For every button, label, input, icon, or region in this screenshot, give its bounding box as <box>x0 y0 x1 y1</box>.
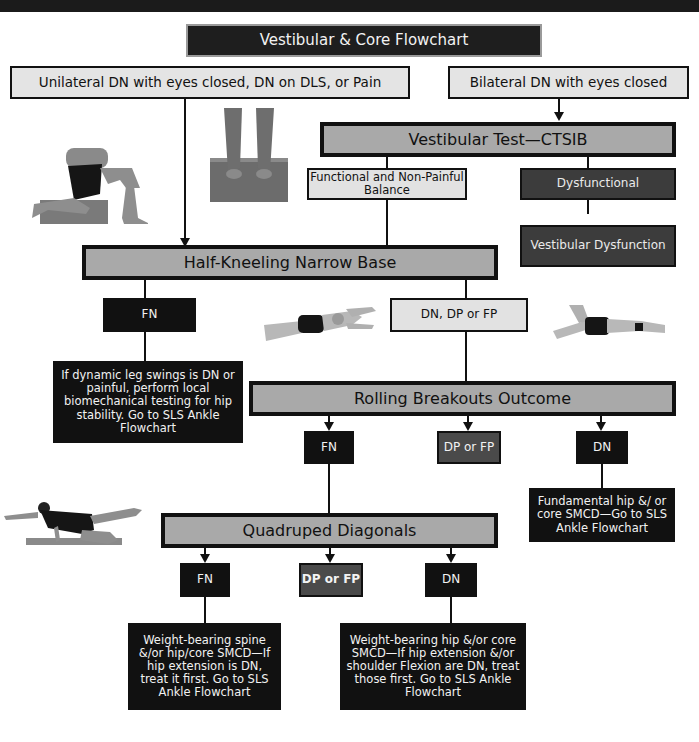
vestibular-dysfunction-box: Vestibular Dysfunction <box>520 225 676 267</box>
connector-line <box>204 597 206 625</box>
quadruped-fn-text: FN <box>197 573 213 586</box>
rolling-breakout-photo-right <box>549 303 669 345</box>
top-bar <box>0 0 699 12</box>
quadruped-dn-text: DN <box>442 573 460 586</box>
rolling-breakouts-box: Rolling Breakouts Outcome <box>249 381 676 416</box>
connector-line <box>601 464 603 490</box>
flowchart-title: Vestibular & Core Flowchart <box>186 24 542 57</box>
rolling-dp-fp-text: DP or FP <box>444 441 495 454</box>
connector-line <box>587 200 589 214</box>
flowchart-title-text: Vestibular & Core Flowchart <box>260 32 469 49</box>
quadruped-box: Quadruped Diagonals <box>161 513 498 548</box>
arrow-down-icon <box>324 422 334 431</box>
functional-balance-text: Functional and Non-Painful Balance <box>309 171 465 197</box>
rolling-dn-note: Fundamental hip &/ or core SMCD—Go to SL… <box>529 488 675 542</box>
vestibular-test-box: Vestibular Test—CTSIB <box>320 122 676 157</box>
rolling-dn-box: DN <box>576 431 628 464</box>
half-kneeling-photo <box>28 148 148 230</box>
quadruped-dn-box: DN <box>425 563 477 597</box>
dysfunctional-box: Dysfunctional <box>520 168 676 200</box>
quadruped-dp-fp-box: DP or FP <box>299 563 363 597</box>
arrow-down-icon <box>325 554 335 563</box>
connector-line <box>465 280 467 300</box>
rolling-dp-fp-box: DP or FP <box>437 431 501 464</box>
rolling-fn-box: FN <box>304 431 354 464</box>
arrow-down-icon <box>596 422 606 431</box>
entry-bilateral: Bilateral DN with eyes closed <box>448 66 689 99</box>
half-kneeling-fn-box: FN <box>103 298 196 332</box>
entry-unilateral: Unilateral DN with eyes closed, DN on DL… <box>10 66 410 99</box>
arrow-down-icon <box>554 112 564 121</box>
rolling-fn-text: FN <box>321 441 337 454</box>
connector-line <box>328 464 330 514</box>
quadruped-dn-note-text: Weight-bearing hip &/or core SMCD—If hip… <box>346 634 520 700</box>
entry-bilateral-text: Bilateral DN with eyes closed <box>470 75 667 90</box>
arrow-down-icon <box>446 554 456 563</box>
rolling-dn-note-text: Fundamental hip &/ or core SMCD—Go to SL… <box>535 495 669 534</box>
standing-on-foam-photo <box>208 108 290 206</box>
connector-line <box>386 200 388 246</box>
quadruped-fn-box: FN <box>180 563 230 597</box>
functional-balance-box: Functional and Non-Painful Balance <box>307 168 467 200</box>
arrow-down-icon <box>463 422 473 431</box>
vestibular-dysfunction-text: Vestibular Dysfunction <box>530 239 665 252</box>
connector-line <box>144 280 146 300</box>
half-kneeling-fn-note: If dynamic leg swings is DN or painful, … <box>53 361 243 443</box>
half-kneeling-other-text: DN, DP or FP <box>421 308 497 321</box>
connector-line <box>184 99 186 241</box>
quadruped-diagonal-photo <box>2 500 148 550</box>
arrow-down-icon <box>200 554 210 563</box>
connector-line <box>558 99 560 113</box>
quadruped-fn-note-text: Weight-bearing spine &/or hip/core SMCD—… <box>134 634 275 700</box>
rolling-dn-text: DN <box>593 441 611 454</box>
connector-line <box>465 332 467 382</box>
vestibular-test-label: Vestibular Test—CTSIB <box>408 131 587 149</box>
connector-line <box>450 597 452 625</box>
quadruped-label: Quadruped Diagonals <box>243 522 417 540</box>
half-kneeling-label: Half-Kneeling Narrow Base <box>184 254 397 272</box>
quadruped-dp-fp-text: DP or FP <box>302 573 360 586</box>
half-kneeling-fn-text: FN <box>142 308 158 321</box>
rolling-breakouts-label: Rolling Breakouts Outcome <box>354 390 571 408</box>
dysfunctional-text: Dysfunctional <box>557 177 639 190</box>
half-kneeling-other-box: DN, DP or FP <box>390 298 528 332</box>
half-kneeling-fn-note-text: If dynamic leg swings is DN or painful, … <box>59 369 237 435</box>
quadruped-fn-note: Weight-bearing spine &/or hip/core SMCD—… <box>128 623 281 710</box>
entry-unilateral-text: Unilateral DN with eyes closed, DN on DL… <box>39 75 381 90</box>
connector-line <box>144 332 146 362</box>
quadruped-dn-note: Weight-bearing hip &/or core SMCD—If hip… <box>340 623 526 710</box>
half-kneeling-box: Half-Kneeling Narrow Base <box>82 245 498 280</box>
rolling-breakout-photo-left <box>262 303 378 345</box>
